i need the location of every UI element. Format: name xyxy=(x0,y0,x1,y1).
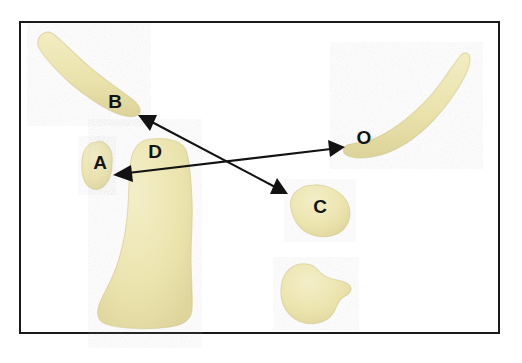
label-o: O xyxy=(357,127,372,148)
arrow-a-to-o-head-end xyxy=(328,140,345,157)
label-a: A xyxy=(93,152,107,173)
label-d: D xyxy=(148,141,162,162)
region-b-shape xyxy=(38,32,141,117)
region-unlabeled-shape xyxy=(281,264,351,324)
label-c: C xyxy=(313,196,327,217)
figure-root: C --> O --> B A D O C xyxy=(0,0,522,363)
region-unlabeled-group xyxy=(281,264,351,324)
label-b: B xyxy=(108,91,122,112)
arrow-a-to-o-head-start xyxy=(113,165,133,182)
region-b-group xyxy=(38,32,141,117)
figure-canvas: C --> O --> B A D O C xyxy=(0,0,522,363)
